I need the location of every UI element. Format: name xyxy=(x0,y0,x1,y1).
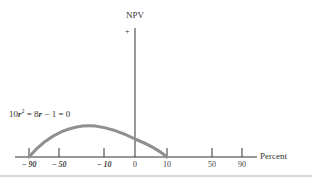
tick-label: 50 xyxy=(208,160,216,170)
equation-annotation: 10r2 = 8r − 1 = 0 xyxy=(9,108,70,119)
y-axis-label: NPV xyxy=(126,10,144,20)
x-axis-label: Percent xyxy=(260,151,287,161)
tick-label: − 50 xyxy=(52,160,67,170)
tick-label: 0 xyxy=(133,160,137,170)
tick-label: 90 xyxy=(238,160,246,170)
tick-label: − 10 xyxy=(97,160,112,170)
npv-curve xyxy=(29,126,167,157)
tick-label: − 90 xyxy=(22,160,37,170)
bottom-divider xyxy=(0,175,312,177)
tick-label: 10 xyxy=(163,160,171,170)
y-positive-marker: + xyxy=(125,27,130,37)
